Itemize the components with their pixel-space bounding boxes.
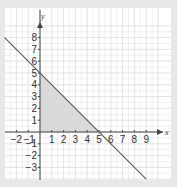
- y-tick-label: 4: [31, 79, 37, 90]
- x-tick-label: 3: [73, 134, 79, 145]
- y-tick-label: −1: [26, 138, 38, 149]
- x-tick-label: 2: [61, 134, 67, 145]
- y-tick-label: 3: [31, 91, 37, 102]
- y-axis-label: y: [40, 12, 45, 21]
- y-tick-label: 8: [31, 32, 37, 43]
- x-axis-label: x: [164, 128, 169, 137]
- y-tick-label: −3: [26, 162, 38, 173]
- coordinate-plane: x y −2−112345678987654321−1−2−3: [0, 0, 177, 187]
- graph-panel: x y −2−112345678987654321−1−2−3: [0, 0, 177, 187]
- x-tick-label: 8: [132, 134, 138, 145]
- y-tick-label: −2: [26, 150, 38, 161]
- x-tick-label: 1: [49, 134, 55, 145]
- x-tick-label: 7: [120, 134, 126, 145]
- x-tick-label: 5: [96, 134, 102, 145]
- x-tick-label: 9: [143, 134, 149, 145]
- y-tick-label: 1: [31, 115, 37, 126]
- x-tick-label: −2: [11, 134, 23, 145]
- y-tick-label: 7: [31, 44, 37, 55]
- y-tick-label: 2: [31, 103, 37, 114]
- x-tick-label: 4: [84, 134, 90, 145]
